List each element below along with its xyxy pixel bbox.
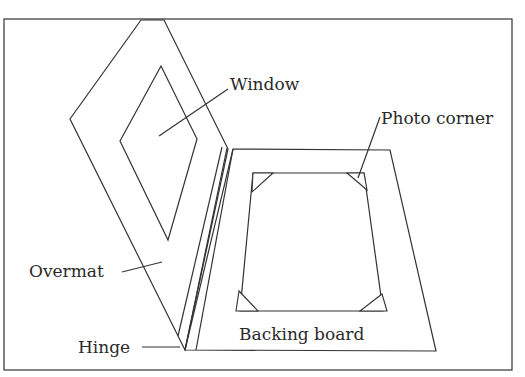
- mat-diagram: Window Photo corner Overmat Backing boar…: [0, 0, 525, 377]
- diagram-frame: [4, 19, 512, 370]
- label-overmat: Overmat: [29, 261, 104, 281]
- label-photo-corner: Photo corner: [381, 108, 494, 128]
- photo-corner-bottom-right: [360, 294, 387, 311]
- photo-corner-top-right: [347, 173, 367, 190]
- photo-corner-bottom-left: [236, 291, 258, 311]
- backing-board-shape: [185, 149, 436, 351]
- overmat-shape: [70, 20, 228, 350]
- photo-corner-leader: [358, 117, 380, 178]
- window-opening: [120, 66, 197, 240]
- hinge-edge-2: [185, 148, 227, 350]
- label-window: Window: [230, 74, 300, 94]
- photo-outline: [240, 173, 383, 311]
- label-hinge: Hinge: [78, 337, 130, 357]
- photo-corner-top-left: [252, 173, 273, 192]
- label-backing-board: Backing board: [239, 324, 365, 344]
